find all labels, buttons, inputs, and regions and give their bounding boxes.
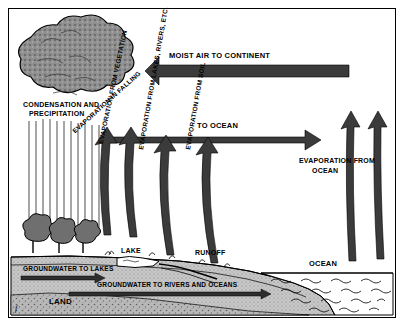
diagram-frame: f MOIST AIR TO CONTINENT CONDENSATION AN… — [8, 8, 396, 318]
label-land: LAND — [49, 297, 72, 306]
label-lake: LAKE — [121, 247, 141, 254]
label-ocean: OCEAN — [309, 259, 337, 268]
label-groundwater-to-rivers: GROUNDWATER TO RIVERS AND OCEANS — [97, 281, 237, 288]
label-condensation: CONDENSATION AND — [23, 101, 99, 108]
label-precipitation: PRECIPITATION — [29, 110, 85, 117]
water-cycle-diagram: f MOIST AIR TO CONTINENT CONDENSATION AN… — [0, 0, 406, 328]
label-groundwater-to-lakes: GROUNDWATER TO LAKES — [23, 265, 113, 272]
label-moist-air: MOIST AIR TO CONTINENT — [169, 51, 270, 60]
label-runoff: RUNOFF — [195, 249, 225, 256]
lake — [117, 257, 159, 268]
label-to-ocean: TO OCEAN — [197, 121, 238, 130]
moist-air-arrow — [145, 57, 349, 85]
label-evaporation-from-ocean-line1: EVAPORATION FROM — [299, 157, 375, 164]
label-evaporation-from-ocean-line2: OCEAN — [312, 167, 338, 174]
